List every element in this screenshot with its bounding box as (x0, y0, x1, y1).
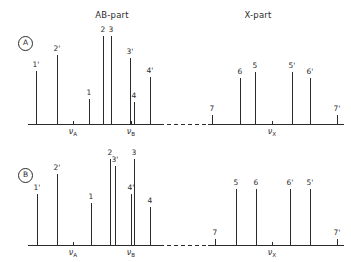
peak-label-A-1p: 1' (33, 60, 40, 69)
peak-label-A-3: 3 (109, 25, 114, 34)
peak-label-A-2: 2 (101, 25, 106, 34)
peak-label-B-5: 5 (234, 178, 239, 187)
nu-B-label-A: νB (127, 127, 135, 136)
peak-label-B-6: 6 (254, 178, 259, 187)
peak-label-B-7: 7 (213, 228, 218, 237)
peak-label-A-2p: 2' (54, 44, 61, 53)
nu-A-label-A: νA (69, 127, 77, 136)
nu-subscript: A (73, 252, 77, 258)
peak-label-A-6p: 6' (307, 67, 314, 76)
nu-A-label-B: νA (69, 248, 77, 257)
peak-label-B-1: 1 (89, 192, 94, 201)
peak-label-B-5p: 5' (307, 178, 314, 187)
peak-label-A-4: 4 (132, 91, 137, 100)
nu-X-label-A: νX (268, 127, 276, 136)
panel-badge-A: A (18, 36, 33, 51)
peak-label-B-3p: 3' (112, 155, 119, 164)
peak-label-A-4p: 4' (147, 66, 154, 75)
nu-subscript: B (131, 252, 135, 258)
peak-label-A-7: 7 (210, 104, 215, 113)
peak-label-B-2p: 2' (54, 163, 61, 172)
peak-label-A-5: 5 (253, 61, 258, 70)
peak-label-B-1p: 1' (34, 183, 41, 192)
nu-subscript: X (272, 131, 276, 137)
nu-subscript: B (131, 131, 135, 137)
peak-label-A-5p: 5' (289, 61, 296, 70)
nu-X-label-B: νX (268, 248, 276, 257)
peak-label-A-3p: 3' (127, 47, 134, 56)
panel-badge-B: B (18, 168, 33, 183)
peak-label-B-7p: 7' (334, 228, 341, 237)
nu-B-label-B: νB (127, 248, 135, 257)
peak-label-B-4p: 4' (128, 183, 135, 192)
spectrum-canvas (0, 0, 351, 262)
peak-label-A-6: 6 (238, 67, 243, 76)
nu-subscript: X (272, 252, 276, 258)
nmr-spectrum-figure: AB-partX-part1'2'1233'44'7655'6'7'AνAνBν… (0, 0, 351, 262)
peak-label-B-4: 4 (148, 196, 153, 205)
peak-label-A-7p: 7' (334, 104, 341, 113)
nu-subscript: A (73, 131, 77, 137)
peak-label-A-1: 1 (87, 88, 92, 97)
peak-label-B-6p: 6' (287, 178, 294, 187)
peak-label-B-3: 3 (132, 148, 137, 157)
